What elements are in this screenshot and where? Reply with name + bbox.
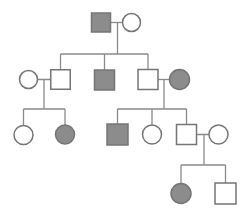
pedigree-chart [0, 0, 250, 215]
individual-II-1-unaffected-female-symbol [20, 71, 38, 89]
individual-I-2-unaffected-female-symbol [123, 14, 141, 32]
individual-IV-1-affected-female-symbol [171, 184, 191, 204]
individual-I-1-affected-male-symbol [92, 13, 111, 32]
individual-III-2-affected-female-symbol [56, 125, 75, 144]
individual-III-4-unaffected-female-symbol [143, 125, 162, 144]
individual-II-2-unaffected-male-symbol [51, 70, 71, 90]
individual-III-6-unaffected-female-symbol [209, 125, 228, 144]
individual-III-5-unaffected-male-symbol [177, 125, 197, 145]
individual-III-3-affected-male-symbol [107, 124, 128, 145]
pedigree-svg [0, 0, 250, 215]
individual-II-3-affected-male-symbol [95, 70, 115, 90]
individual-IV-2-unaffected-male-symbol [215, 183, 236, 204]
individual-II-5-affected-female-symbol [170, 70, 190, 90]
individual-III-1-unaffected-female-symbol [14, 126, 33, 145]
individual-II-4-unaffected-male-symbol [138, 70, 158, 90]
